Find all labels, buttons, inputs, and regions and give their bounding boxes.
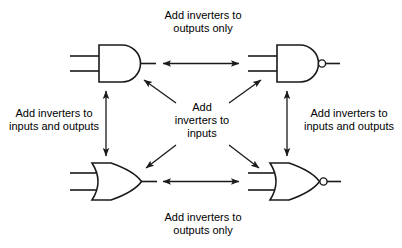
connector-center-to-nand [229,80,261,103]
nand-gate [248,45,340,82]
nand-gate-body [277,45,319,82]
nor-gate-body [270,163,320,200]
logic-gate-diagram: Add inverters to outputs only Add invert… [0,0,402,248]
or-gate-body [92,163,142,200]
connector-center-to-and [144,80,176,103]
nor-gate-inversion-bubble [320,178,327,185]
or-gate [70,163,157,200]
label-center-inputs: Add inverters to inputs [152,101,252,140]
connector-center-to-nor [229,145,259,168]
and-gate-body [99,45,141,82]
label-right-inputs-and-outputs: Add inverters to inputs and outputs [297,107,401,133]
label-left-inputs-and-outputs: Add inverters to inputs and outputs [2,107,106,133]
nand-gate-inversion-bubble [318,60,325,67]
and-gate [70,45,156,82]
label-bottom-outputs-only: Add inverters to outputs only [131,211,275,237]
connector-center-to-or [146,145,176,168]
nor-gate [248,163,341,200]
label-top-outputs-only: Add inverters to outputs only [131,9,275,35]
